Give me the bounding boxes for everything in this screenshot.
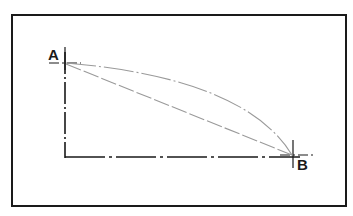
- point-a-label: A: [48, 46, 59, 63]
- point-b-label: B: [297, 156, 308, 173]
- diagram-canvas: A B: [0, 0, 353, 216]
- straight-path-line: [66, 64, 292, 155]
- frame-border: [12, 15, 346, 206]
